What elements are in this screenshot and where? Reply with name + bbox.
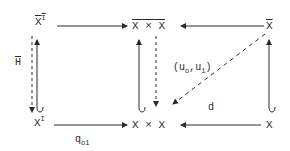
node-top-left-sup: I [42,14,46,22]
node-top-right: X [266,21,273,32]
node-bottom-middle: X × X [132,120,165,131]
label-q01-sub: o1 [81,139,89,147]
label-d: d [208,103,214,113]
node-bottom-right: X [266,120,273,131]
label-q01: qo1 [75,135,89,145]
node-top-middle: X × X [132,21,165,32]
hook-arrow-left [37,40,43,112]
label-h-bar: H [15,58,21,68]
node-top-left-base: X [35,16,42,28]
label-u0-u1-close: ) [205,62,211,73]
label-u0-u1: (uo,u1) [173,63,211,73]
node-bottom-left-base: X [34,117,41,129]
node-bottom-left-sup: I [41,115,45,123]
hook-arrow-middle [139,40,145,112]
node-top-left: XI [35,17,46,28]
hook-arrow-right [269,40,275,112]
node-bottom-left: XI [34,118,45,129]
label-u1-base: ,u [189,62,201,73]
label-u0-u1-open: (u [173,62,185,73]
